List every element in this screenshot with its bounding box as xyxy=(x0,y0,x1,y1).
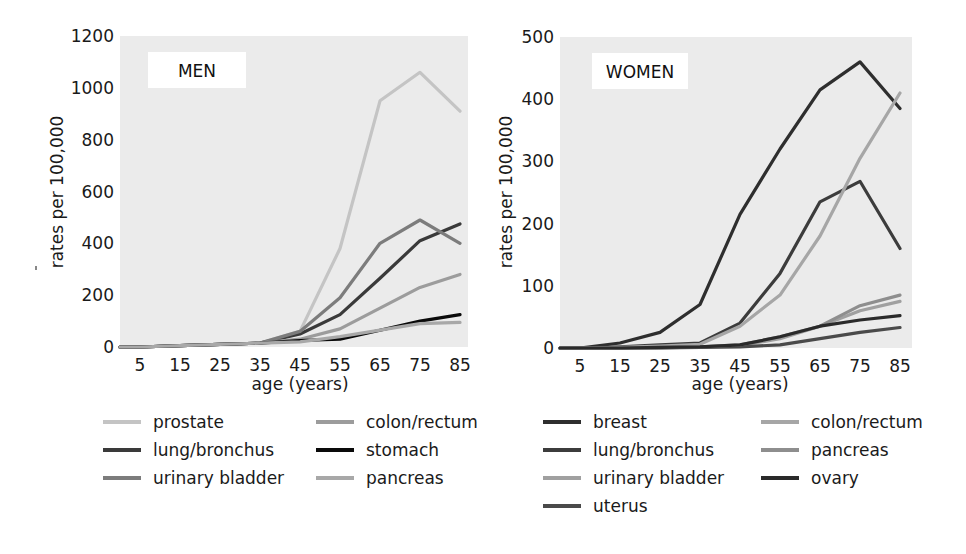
y-tick-label: 1000 xyxy=(71,78,114,98)
legend-label: lung/bronchus xyxy=(593,440,714,460)
women-title: WOMEN xyxy=(606,62,674,82)
swatch-icon xyxy=(316,420,354,424)
legend-label: urinary bladder xyxy=(153,468,284,488)
legend-label: stomach xyxy=(366,440,439,460)
y-tick-label: 600 xyxy=(82,182,114,202)
x-tick-label: 25 xyxy=(649,356,671,376)
swatch-icon xyxy=(316,448,354,452)
x-tick-label: 35 xyxy=(689,356,711,376)
women-x-axis-label: age (years) xyxy=(691,374,788,394)
y-tick-label: 100 xyxy=(522,276,554,296)
legend-label: uterus xyxy=(593,496,648,516)
legend-label: ovary xyxy=(811,468,859,488)
swatch-icon xyxy=(761,448,799,452)
y-tick-label: 400 xyxy=(82,233,114,253)
swatch-icon xyxy=(103,448,141,452)
y-tick-label: 200 xyxy=(82,285,114,305)
y-tick-label: 800 xyxy=(82,130,114,150)
x-tick-label: 15 xyxy=(169,355,191,375)
y-tick-label: 0 xyxy=(543,338,554,358)
men-x-axis-label: age (years) xyxy=(251,374,348,394)
y-tick-label: 1200 xyxy=(71,26,114,46)
legend-label: pancreas xyxy=(366,468,444,488)
x-tick-label: 15 xyxy=(609,356,631,376)
x-tick-label: 85 xyxy=(449,355,471,375)
legend-label: prostate xyxy=(153,412,224,432)
legend-item-lung-bronchus: lung/bronchus xyxy=(543,438,714,462)
y-tick-label: 400 xyxy=(522,89,554,109)
legend-label: lung/bronchus xyxy=(153,440,274,460)
legend-item-colon-rectum: colon/rectum xyxy=(316,410,478,434)
legend-item-pancreas: pancreas xyxy=(761,438,889,462)
men-chart: MEN 020040060080010001200 51525354555657… xyxy=(47,26,471,394)
legend-label: pancreas xyxy=(811,440,889,460)
x-tick-label: 5 xyxy=(135,355,146,375)
x-tick-label: 65 xyxy=(369,355,391,375)
legend-label: colon/rectum xyxy=(811,412,923,432)
x-tick-label: 35 xyxy=(249,355,271,375)
legend-item-colon-rectum: colon/rectum xyxy=(761,410,923,434)
swatch-icon xyxy=(103,420,141,424)
legend-item-pancreas: pancreas xyxy=(316,466,444,490)
swatch-icon xyxy=(543,476,581,480)
women-y-axis-label: rates per 100,000 xyxy=(496,116,516,269)
legend-item-stomach: stomach xyxy=(316,438,439,462)
legend-item-urinary-bladder: urinary bladder xyxy=(103,466,284,490)
legend-item-breast: breast xyxy=(543,410,647,434)
legend-item-lung-bronchus: lung/bronchus xyxy=(103,438,274,462)
legend-label: urinary bladder xyxy=(593,468,724,488)
x-tick-label: 75 xyxy=(849,356,871,376)
x-tick-label: 5 xyxy=(575,356,586,376)
x-tick-label: 25 xyxy=(209,355,231,375)
x-tick-label: 85 xyxy=(889,356,911,376)
x-tick-label: 55 xyxy=(769,356,791,376)
stray-mark xyxy=(35,266,37,270)
swatch-icon xyxy=(103,476,141,480)
legend-label: colon/rectum xyxy=(366,412,478,432)
legend-label: breast xyxy=(593,412,647,432)
legend-item-uterus: uterus xyxy=(543,494,648,518)
legend-item-prostate: prostate xyxy=(103,410,224,434)
legend-item-ovary: ovary xyxy=(761,466,859,490)
swatch-icon xyxy=(543,420,581,424)
men-y-axis-label: rates per 100,000 xyxy=(47,116,67,269)
x-tick-label: 45 xyxy=(729,356,751,376)
swatch-icon xyxy=(543,448,581,452)
x-tick-label: 75 xyxy=(409,355,431,375)
y-tick-label: 200 xyxy=(522,214,554,234)
men-title: MEN xyxy=(178,61,216,81)
swatch-icon xyxy=(316,476,354,480)
men-x-axis: 51525354555657585 xyxy=(135,355,471,375)
women-y-axis: 0100200300400500 xyxy=(522,27,554,358)
y-tick-label: 300 xyxy=(522,151,554,171)
men-y-axis: 020040060080010001200 xyxy=(71,26,114,357)
swatch-icon xyxy=(761,476,799,480)
women-chart: WOMEN 0100200300400500 51525354555657585… xyxy=(496,27,912,394)
y-tick-label: 500 xyxy=(522,27,554,47)
x-tick-label: 65 xyxy=(809,356,831,376)
x-tick-label: 55 xyxy=(329,355,351,375)
legend-item-urinary-bladder: urinary bladder xyxy=(543,466,724,490)
women-x-axis: 51525354555657585 xyxy=(575,356,911,376)
x-tick-label: 45 xyxy=(289,355,311,375)
swatch-icon xyxy=(761,420,799,424)
swatch-icon xyxy=(543,504,581,508)
y-tick-label: 0 xyxy=(103,337,114,357)
